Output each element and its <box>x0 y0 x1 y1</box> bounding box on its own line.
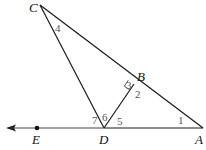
label-B: B <box>137 69 145 84</box>
angle-label-4: 4 <box>55 22 61 34</box>
angle-label-2: 2 <box>135 88 141 100</box>
angle-label-7: 7 <box>92 114 98 126</box>
geometry-diagram: C B A D E 1 2 3 4 5 6 7 <box>0 0 206 150</box>
segment-CA <box>40 5 203 128</box>
label-D: D <box>98 132 109 147</box>
label-C: C <box>29 0 38 15</box>
angle-label-1: 1 <box>178 114 184 126</box>
point-E-dot <box>35 126 40 131</box>
label-A: A <box>194 132 203 147</box>
angle-label-3: 3 <box>126 79 132 91</box>
angle-label-6: 6 <box>102 111 108 123</box>
segment-CD <box>40 5 104 128</box>
label-E: E <box>31 132 40 147</box>
angle-label-5: 5 <box>117 115 123 127</box>
diagram-canvas: C B A D E 1 2 3 4 5 6 7 <box>0 0 206 150</box>
